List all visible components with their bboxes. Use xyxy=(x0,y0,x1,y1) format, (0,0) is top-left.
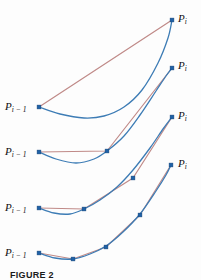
label-subscript: i − 1 xyxy=(12,105,27,114)
label-p-i-3: Pi xyxy=(178,110,187,123)
label-subscript: i xyxy=(185,162,187,171)
control-point xyxy=(71,257,75,261)
curve-subdivision-diagram xyxy=(0,0,201,280)
label-base: P xyxy=(5,100,12,112)
control-point xyxy=(104,245,108,249)
control-point-end xyxy=(170,18,174,22)
panel-4 xyxy=(37,163,173,261)
label-p-i-2: Pi xyxy=(178,60,187,73)
control-point-end xyxy=(170,66,174,70)
control-point-start xyxy=(37,105,41,109)
control-point xyxy=(82,207,86,211)
label-p-i-1: Pi xyxy=(178,13,187,26)
label-subscript: i − 1 xyxy=(12,251,27,260)
control-point-end xyxy=(169,163,173,167)
label-subscript: i xyxy=(185,64,187,73)
label-subscript: i xyxy=(185,114,187,123)
label-p-i-4: Pi xyxy=(178,158,187,171)
bezier-curve xyxy=(39,117,172,214)
label-p-i-minus-1-4: Pi − 1 xyxy=(5,247,26,260)
label-base: P xyxy=(5,145,12,157)
label-base: P xyxy=(5,246,12,258)
control-point-start xyxy=(37,251,41,255)
label-base: P xyxy=(178,12,185,24)
control-point xyxy=(138,213,142,217)
label-subscript: i − 1 xyxy=(12,206,27,215)
control-point-start xyxy=(37,206,41,210)
label-base: P xyxy=(5,201,12,213)
label-base: P xyxy=(178,157,185,169)
label-base: P xyxy=(178,109,185,121)
label-base: P xyxy=(178,59,185,71)
label-subscript: i − 1 xyxy=(12,150,27,159)
label-p-i-minus-1-1: Pi − 1 xyxy=(5,101,26,114)
panel-3 xyxy=(37,115,174,214)
label-p-i-minus-1-2: Pi − 1 xyxy=(5,146,26,159)
control-point xyxy=(105,149,109,153)
label-p-i-minus-1-3: Pi − 1 xyxy=(5,202,26,215)
bezier-curve xyxy=(39,20,172,118)
control-point-start xyxy=(37,150,41,154)
panels-group xyxy=(37,18,174,261)
control-polyline xyxy=(39,68,172,152)
control-point xyxy=(131,176,135,180)
panel-1 xyxy=(37,18,174,118)
control-point-end xyxy=(170,115,174,119)
panel-2 xyxy=(37,66,174,163)
figure-container: Pi − 1PiPi − 1PiPi − 1PiPi − 1Pi FIGURE … xyxy=(0,0,201,280)
label-subscript: i xyxy=(185,17,187,26)
figure-caption: FIGURE 2 xyxy=(10,270,54,280)
